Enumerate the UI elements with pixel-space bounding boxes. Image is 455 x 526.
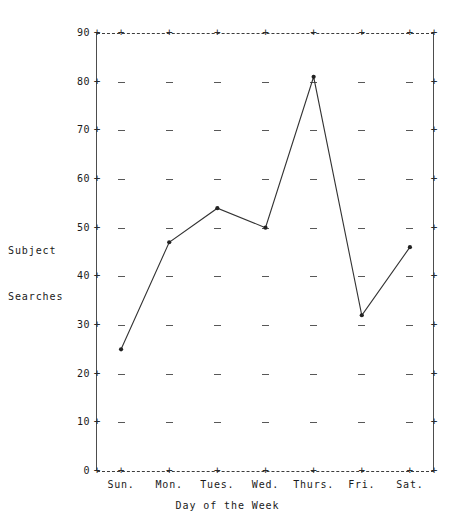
y-axis-tick: 60: [60, 174, 90, 184]
series-line-subject-searches: [97, 33, 434, 471]
x-axis-tick-marker: +: [212, 465, 222, 476]
data-point-wed: [263, 226, 267, 230]
x-axis-top-tick-marker: +: [309, 27, 319, 38]
x-axis-tick-marker: +: [405, 465, 415, 476]
y-axis-tick: 20: [60, 369, 90, 379]
y-axis-title-line-2: Searches: [8, 291, 88, 302]
x-axis-title: Day of the Week: [0, 500, 455, 511]
y-axis-tick-label: 40: [64, 271, 90, 281]
y-axis-tick-label: 10: [64, 417, 90, 427]
y-axis-tick-label: 90: [64, 28, 90, 38]
x-axis-top-tick-marker: +: [405, 27, 415, 38]
x-axis-tick-marker: +: [309, 465, 319, 476]
y-axis-tick-label: 60: [64, 174, 90, 184]
y-axis-tick: 70: [60, 125, 90, 135]
y-axis-tick: 40: [60, 271, 90, 281]
data-point-sat: [408, 245, 412, 249]
data-point-tues: [215, 206, 219, 210]
y-axis-tick-label: 50: [64, 223, 90, 233]
line-chart: 0++10++20++30++40++50++60++70++80++90++ …: [0, 0, 455, 526]
x-axis-tick-marker: +: [116, 465, 126, 476]
y-axis-tick: 0: [60, 466, 90, 476]
x-axis-tick-marker: +: [164, 465, 174, 476]
x-axis-top-tick-marker: +: [164, 27, 174, 38]
x-axis-tick-marker: +: [357, 465, 367, 476]
x-axis-tick-label: Sat.: [380, 479, 440, 490]
x-axis-top-tick-marker: +: [357, 27, 367, 38]
y-axis-tick: 90: [60, 28, 90, 38]
y-axis-tick-label: 30: [64, 320, 90, 330]
y-axis-tick: 50: [60, 223, 90, 233]
x-axis-tick-marker: +: [261, 465, 271, 476]
y-axis-tick: 30: [60, 320, 90, 330]
y-axis-tick: 80: [60, 77, 90, 87]
y-axis-tick-label: 70: [64, 125, 90, 135]
x-axis-top-tick-marker: +: [116, 27, 126, 38]
data-point-fri: [360, 313, 364, 317]
data-point-mon: [167, 240, 171, 244]
data-point-thurs: [312, 75, 316, 79]
x-axis-top-tick-marker: +: [212, 27, 222, 38]
y-axis-tick-label: 0: [64, 466, 90, 476]
y-axis-tick-label: 20: [64, 369, 90, 379]
y-axis-tick: 10: [60, 417, 90, 427]
x-axis-top-tick-marker: +: [261, 27, 271, 38]
plot-area: [97, 33, 434, 471]
y-axis-title-line-1: Subject: [8, 245, 88, 256]
y-axis-tick-label: 80: [64, 77, 90, 87]
data-point-sun: [119, 347, 123, 351]
